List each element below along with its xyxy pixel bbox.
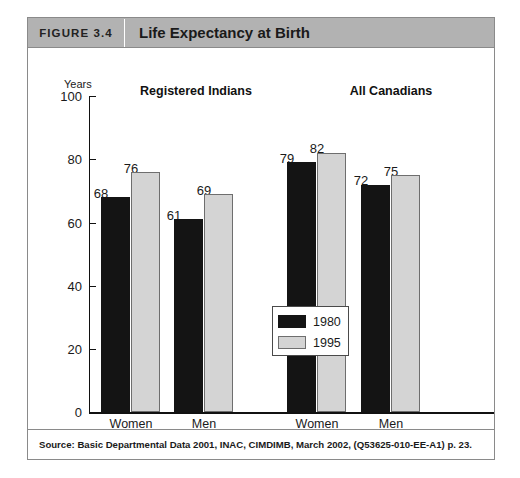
chart-legend: 1980 1995 — [272, 306, 349, 356]
y-tick-60 — [89, 223, 96, 224]
chart-plot-area: Years 100 80 60 40 20 0 Registered India… — [28, 48, 494, 429]
legend-swatch-1980 — [278, 315, 306, 328]
page-title: Life Expectancy at Birth — [125, 24, 310, 41]
legend-item-1995: 1995 — [278, 333, 348, 352]
group-heading-all-canadians: All Canadians — [311, 84, 471, 98]
bar-ac-women-1980 — [287, 162, 316, 412]
y-tick-label-0: 0 — [36, 405, 82, 420]
legend-item-1980: 1980 — [278, 312, 348, 331]
legend-swatch-1995 — [278, 336, 306, 349]
bar-ac-women-1995 — [317, 153, 346, 412]
y-tick-label-20: 20 — [36, 342, 82, 357]
y-axis-line — [89, 96, 90, 413]
bar-ri-men-1980 — [174, 219, 203, 412]
y-tick-label-40: 40 — [36, 279, 82, 294]
y-tick-20 — [89, 349, 96, 350]
y-tick-label-60: 60 — [36, 216, 82, 231]
legend-label-1980: 1980 — [313, 315, 341, 329]
source-footer: Source: Basic Departmental Data 2001, IN… — [28, 429, 494, 459]
bar-ri-men-1995 — [204, 194, 233, 412]
y-tick-100 — [89, 96, 96, 97]
legend-label-1995: 1995 — [313, 336, 341, 350]
y-tick-label-100: 100 — [36, 89, 82, 104]
figure-frame: FIGURE 3.4 Life Expectancy at Birth Year… — [27, 17, 495, 460]
x-axis-line — [89, 412, 494, 414]
source-text: Source: Basic Departmental Data 2001, IN… — [28, 439, 472, 450]
figure-number: FIGURE 3.4 — [28, 27, 124, 39]
y-tick-80 — [89, 159, 96, 160]
bar-ac-men-1995 — [391, 175, 420, 412]
y-tick-40 — [89, 286, 96, 287]
group-heading-registered-indians: Registered Indians — [116, 84, 276, 98]
y-tick-label-80: 80 — [36, 152, 82, 167]
bar-ri-women-1980 — [101, 197, 130, 412]
figure-header: FIGURE 3.4 Life Expectancy at Birth — [28, 18, 494, 48]
bar-ac-men-1980 — [361, 185, 390, 412]
